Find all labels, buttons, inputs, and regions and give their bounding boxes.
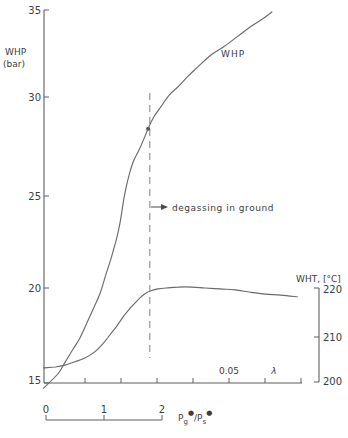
ratio-tick-label-2: 2 <box>159 404 165 415</box>
ratio-tick-label-1: 1 <box>101 404 107 415</box>
right-tick-label-210: 210 <box>323 332 342 343</box>
left-axis: 35 30 25 20 15 WHP (bar) <box>3 5 49 386</box>
left-tick-label-20: 20 <box>28 283 41 294</box>
degassing-arrow-head-icon <box>161 204 168 210</box>
lambda-axis-ticks <box>85 378 301 383</box>
left-tick-label-25: 25 <box>28 191 41 202</box>
right-axis-title: WHT, [°C] <box>296 274 341 284</box>
ratio-tick-label-0: 0 <box>43 404 49 415</box>
left-axis-title-line2: (bar) <box>3 59 25 69</box>
figure: 35 30 25 20 15 WHP (bar) 0.05 λ 220 210 … <box>0 0 348 438</box>
whp-curve-label: WHP <box>221 49 245 59</box>
ratio-label-sup-star2: ● <box>206 409 212 417</box>
right-tick-label-200: 200 <box>323 376 342 387</box>
left-axis-title-line1: WHP <box>5 47 27 57</box>
ratio-label-sub-s: s <box>202 418 206 426</box>
left-tick-label-35: 35 <box>28 5 41 16</box>
right-axis: 220 210 200 WHT, [°C] <box>296 274 342 387</box>
chart-svg: 35 30 25 20 15 WHP (bar) 0.05 λ 220 210 … <box>0 0 348 438</box>
ratio-scale: 0 1 2 Pg●/Ps● <box>43 404 212 426</box>
wht-curve <box>43 287 298 368</box>
ratio-label-sub-g: g <box>183 418 187 426</box>
degassing-annotation: degassing in ground <box>146 93 274 358</box>
degassing-annotation-text: degassing in ground <box>172 203 274 213</box>
lambda-tick-label: 0.05 <box>219 366 239 376</box>
lambda-symbol: λ <box>270 366 276 376</box>
left-tick-label-30: 30 <box>28 92 41 103</box>
right-tick-label-220: 220 <box>323 284 342 295</box>
right-axis-ticks <box>314 288 319 382</box>
ratio-axis-label: Pg●/Ps● <box>178 409 212 426</box>
left-axis-ticks <box>44 10 49 383</box>
ratio-scale-ticks <box>46 415 162 420</box>
left-tick-label-15: 15 <box>28 375 41 386</box>
whp-curve <box>43 12 272 389</box>
lambda-axis: 0.05 λ <box>44 366 302 383</box>
